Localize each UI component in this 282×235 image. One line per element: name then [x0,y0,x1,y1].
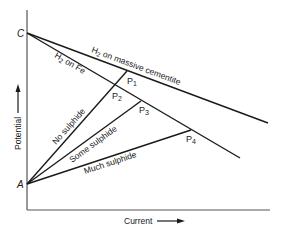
label-no-sulphide: No sulphide [50,106,87,146]
point-a-label: A [16,179,24,190]
y-axis-label-group: Potential [13,84,23,150]
x-axis-label-group: Current [124,216,185,226]
arrow-up-icon [16,84,21,92]
evans-diagram: C A P1 P2 P3 P4 H2 on massive cementite … [0,0,282,235]
point-c-label: C [17,28,25,39]
x-axis-label: Current [124,216,153,226]
y-axis-label: Potential [13,117,23,150]
point-p1-label: P1 [127,76,137,87]
point-p2-label: P2 [112,91,122,102]
point-p4-label: P4 [186,134,196,145]
point-p3-label: P3 [139,105,149,116]
arrow-right-icon [177,219,185,224]
